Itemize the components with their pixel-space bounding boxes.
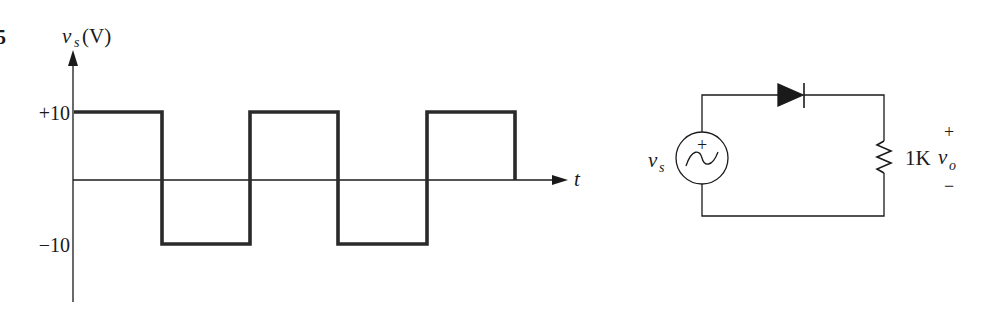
output-minus-sign: −	[944, 176, 954, 196]
diode-icon	[778, 84, 803, 106]
x-axis-label: t	[574, 167, 581, 191]
output-plus-sign: +	[944, 122, 954, 142]
tick-low: −10	[39, 234, 70, 256]
resistor-label: 1K	[905, 146, 931, 170]
diagram-canvas: 5 v s (V) t +10 −10 + v	[0, 0, 982, 320]
problem-number: 5	[0, 26, 6, 48]
source-plus-sign: +	[697, 135, 707, 155]
waveform-plot: v s (V) t +10 −10	[39, 24, 581, 302]
wire-bottom	[702, 173, 884, 216]
source-label-sub: s	[659, 160, 665, 175]
y-axis-arrow-icon	[68, 50, 78, 66]
source-label-var: v	[648, 148, 658, 172]
square-wave-trace	[74, 112, 515, 244]
y-axis-label-sub: s	[74, 35, 80, 50]
y-axis-label-var: v	[62, 24, 72, 48]
tick-high: +10	[39, 102, 70, 124]
y-axis-label-unit: (V)	[82, 24, 111, 48]
wire-top-right	[804, 95, 884, 141]
resistor-icon	[877, 141, 891, 173]
x-axis-arrow-icon	[552, 175, 568, 185]
output-label-sub: o	[949, 158, 956, 173]
circuit	[676, 83, 891, 216]
wire-top-left	[702, 95, 778, 132]
output-label-var: v	[938, 145, 948, 169]
